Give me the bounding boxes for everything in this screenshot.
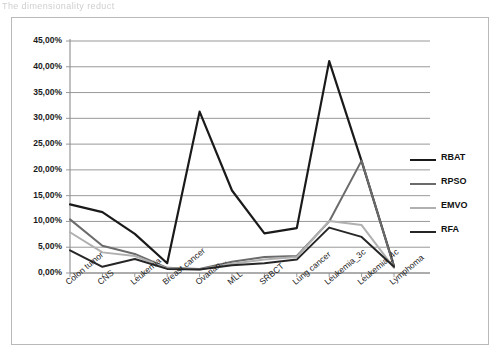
cropped-caption-text: The dimensionality reduct [0, 0, 503, 14]
legend-item-rbat[interactable]: RBAT [410, 149, 498, 173]
y-tick-label: 10,00% [18, 216, 62, 225]
series-line-rpso [70, 161, 394, 269]
legend-label: EMVO [441, 200, 468, 210]
y-tick-label: 20,00% [18, 165, 62, 174]
y-tick-label: 15,00% [18, 191, 62, 200]
legend-line-swatch [410, 159, 436, 161]
y-tick-label: 5,00% [18, 242, 62, 251]
legend-line-swatch [410, 231, 436, 233]
legend-label: RFA [441, 224, 459, 234]
chart-legend: RBATRPSOEMVORFA [410, 149, 498, 245]
legend-line-swatch [410, 207, 436, 209]
legend-item-rfa[interactable]: RFA [410, 221, 498, 245]
y-tick-label: 0,00% [18, 268, 62, 277]
y-tick-label: 30,00% [18, 113, 62, 122]
y-tick-label: 45,00% [18, 36, 62, 45]
cropped-caption-label: The dimensionality reduct [0, 0, 503, 13]
legend-item-emvo[interactable]: EMVO [410, 197, 498, 221]
y-tick-label: 40,00% [18, 62, 62, 71]
y-tick-label: 25,00% [18, 139, 62, 148]
chart-container: 0,00%5,00%10,00%15,00%20,00%25,00%30,00%… [11, 17, 489, 345]
screenshot-root: The dimensionality reduct 0,00%5,00%10,0… [0, 0, 503, 357]
legend-item-rpso[interactable]: RPSO [410, 173, 498, 197]
legend-label: RPSO [441, 176, 467, 186]
series-line-rbat [70, 61, 394, 266]
legend-line-swatch [410, 183, 436, 185]
legend-label: RBAT [441, 152, 465, 162]
y-tick-label: 35,00% [18, 88, 62, 97]
